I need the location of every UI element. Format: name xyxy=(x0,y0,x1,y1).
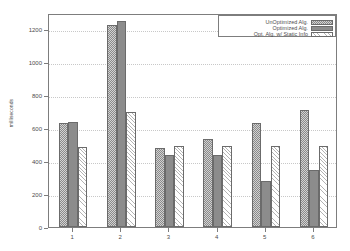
legend-item-swatch xyxy=(311,20,333,25)
x-axis-tick-label: 3 xyxy=(153,234,183,240)
bar xyxy=(261,181,271,227)
legend-item-label: UnOptimized Alg. xyxy=(266,19,308,25)
plot-area xyxy=(48,14,337,228)
x-axis-tick-label: 2 xyxy=(105,234,135,240)
x-axis-tick-mark xyxy=(217,228,218,232)
y-axis-tick-label: 0 xyxy=(2,225,42,231)
x-axis-tick-mark xyxy=(168,228,169,232)
bar xyxy=(68,122,78,227)
bar-chart: milliseconds 020040060080010001200 12345… xyxy=(0,0,350,251)
legend-item: UnOptimized Alg. xyxy=(266,19,333,25)
bar xyxy=(300,110,310,227)
bar xyxy=(203,139,213,227)
y-axis-label: milliseconds xyxy=(8,78,14,148)
bar xyxy=(174,146,184,227)
y-axis-tick-label: 600 xyxy=(2,126,42,132)
x-axis-tick-label: 5 xyxy=(250,234,280,240)
x-axis-tick-mark xyxy=(265,228,266,232)
y-axis-tick-label: 400 xyxy=(2,159,42,165)
bar xyxy=(107,25,117,227)
gridline xyxy=(49,163,336,164)
bar xyxy=(309,170,319,227)
y-axis-tick-label: 800 xyxy=(2,93,42,99)
x-axis-tick-label: 6 xyxy=(298,234,328,240)
legend-item-swatch xyxy=(311,26,333,31)
y-axis-tick-label: 1200 xyxy=(2,27,42,33)
y-axis-tick-mark xyxy=(44,228,48,229)
gridline xyxy=(49,130,336,131)
bar xyxy=(252,123,262,227)
gridline xyxy=(49,196,336,197)
bar xyxy=(117,21,127,227)
legend-item-label: Optimized Alg. xyxy=(273,25,308,31)
y-axis-tick-label: 1000 xyxy=(2,60,42,66)
bar xyxy=(59,123,69,227)
legend-item-label: Opt. Alg. w/ Static Info xyxy=(254,31,308,37)
bar xyxy=(165,155,175,227)
x-axis-tick-mark xyxy=(120,228,121,232)
bar xyxy=(155,148,165,227)
gridline xyxy=(49,97,336,98)
x-axis-tick-label: 1 xyxy=(57,234,87,240)
x-axis-tick-label: 4 xyxy=(202,234,232,240)
x-axis-tick-mark xyxy=(313,228,314,232)
gridline xyxy=(49,64,336,65)
bar xyxy=(319,146,329,227)
legend: UnOptimized Alg.Optimized Alg.Opt. Alg. … xyxy=(218,15,336,37)
legend-item: Opt. Alg. w/ Static Info xyxy=(254,31,333,37)
bar xyxy=(126,112,136,227)
bar xyxy=(213,155,223,227)
legend-item: Optimized Alg. xyxy=(273,25,333,31)
x-axis-tick-mark xyxy=(72,228,73,232)
bar xyxy=(78,147,88,227)
bar xyxy=(222,146,232,227)
bar xyxy=(271,146,281,227)
y-axis-tick-label: 200 xyxy=(2,192,42,198)
legend-item-swatch xyxy=(311,32,333,37)
